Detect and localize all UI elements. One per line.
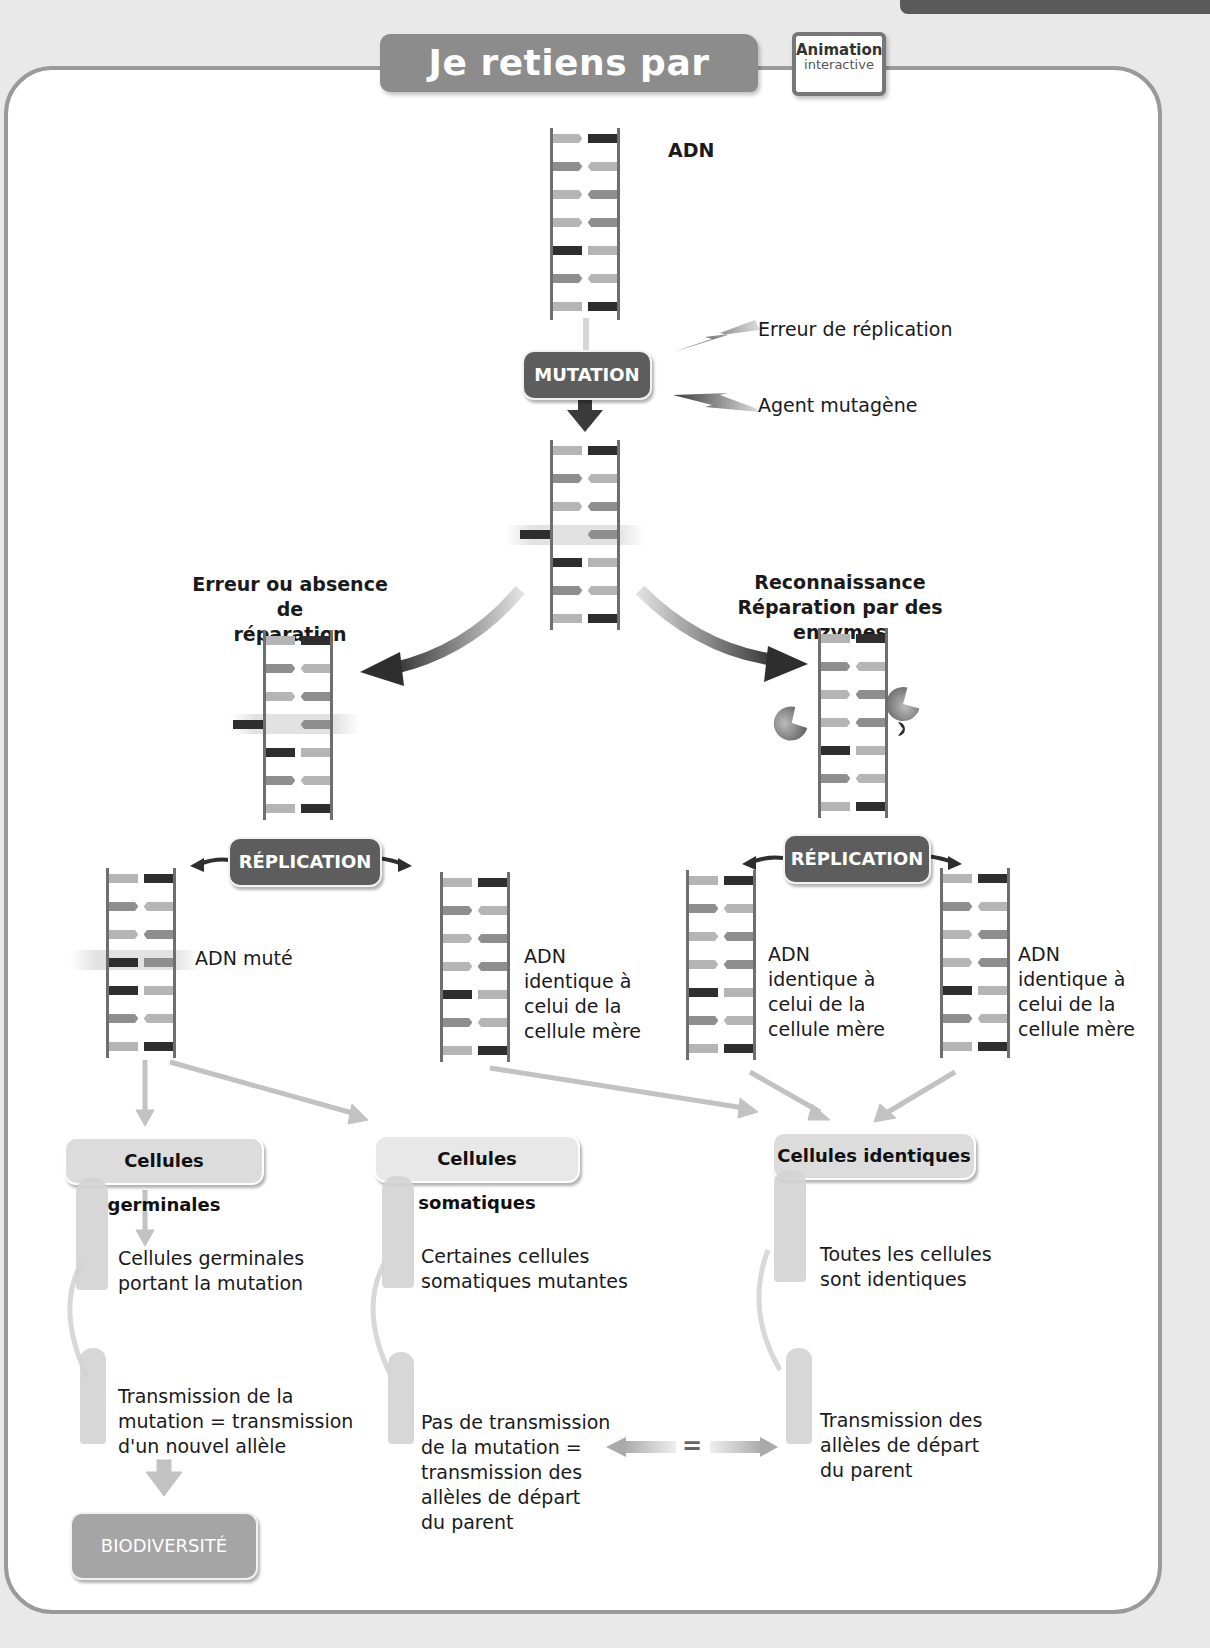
arrow-to-somatic xyxy=(170,1062,356,1114)
germinal-child-text: Transmission de lamutation = transmissio… xyxy=(118,1384,353,1459)
equals-sign: = xyxy=(682,1434,702,1459)
identical-dna-label-1: ADNidentique àcelui de lacellule mère xyxy=(524,944,641,1044)
child-silhouette-icon xyxy=(388,1352,414,1444)
adult-silhouette-icon xyxy=(774,1170,806,1282)
category-identical: Cellules identiques xyxy=(772,1132,976,1180)
somatic-adult-text: Certaines cellulessomatiques mutantes xyxy=(421,1244,628,1294)
arrow-left-icon xyxy=(742,856,756,870)
identical-dna-label-2: ADNidentique àcelui de lacellule mère xyxy=(768,942,885,1042)
child-silhouette-icon xyxy=(80,1348,106,1444)
identical-child-text: Transmission desallèles de départdu pare… xyxy=(820,1408,982,1483)
dna-unrepaired xyxy=(263,630,333,820)
identical-dna-label-3: ADNidentique àcelui de lacellule mère xyxy=(1018,942,1135,1042)
enzyme-icon xyxy=(768,703,810,747)
arrow-to-identical-3 xyxy=(888,1072,955,1112)
down-arrow-icon xyxy=(567,398,603,432)
displaced-base xyxy=(233,720,263,729)
mutated-dna-label: ADN muté xyxy=(195,946,293,971)
arrow-to-identical-1 xyxy=(490,1068,744,1108)
dna-repaired xyxy=(818,628,888,818)
dna-daughter-identical-1 xyxy=(440,872,510,1062)
dna-daughter-identical-3 xyxy=(940,868,1010,1058)
adult-silhouette-icon xyxy=(76,1178,108,1290)
identical-adult-text: Toutes les cellulessont identiques xyxy=(820,1242,992,1292)
child-silhouette-icon xyxy=(786,1348,812,1444)
somatic-child-text: Pas de transmissionde la mutation =trans… xyxy=(421,1410,610,1535)
replication-box-right: RÉPLICATION xyxy=(783,834,931,884)
arrow-right-icon xyxy=(398,858,412,872)
dna-daughter-mutated xyxy=(106,868,176,1058)
mutation-box: MUTATION xyxy=(522,350,652,400)
cause-replication-error: Erreur de réplication xyxy=(758,317,952,342)
displaced-base xyxy=(520,530,550,539)
connector-line xyxy=(583,318,589,352)
cause-mutagen: Agent mutagène xyxy=(758,393,917,418)
arrow-to-identical-2 xyxy=(750,1072,820,1112)
enzyme-fragment-icon xyxy=(898,722,905,736)
dna-daughter-identical-2 xyxy=(686,870,756,1060)
dna-original xyxy=(550,128,620,320)
mutation-label: MUTATION xyxy=(534,364,639,385)
dna-mutated-center xyxy=(550,440,620,630)
category-somatic: Cellules somatiques xyxy=(374,1135,580,1183)
lightning-bolt-icon xyxy=(673,320,760,352)
arrow-left-icon xyxy=(190,858,204,872)
germinal-adult-text: Cellules germinalesportant la mutation xyxy=(118,1246,304,1296)
replication-box-left: RÉPLICATION xyxy=(228,837,382,887)
adult-silhouette-icon xyxy=(382,1176,414,1288)
biodiversity-box: BIODIVERSITÉ xyxy=(70,1512,258,1580)
dna-label: ADN xyxy=(668,138,714,163)
lightning-bolt-icon xyxy=(673,393,760,412)
